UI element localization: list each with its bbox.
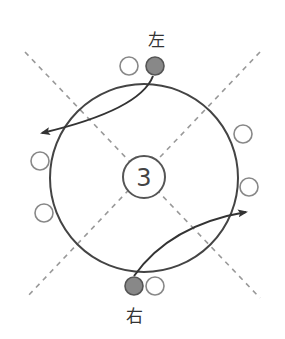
open-marker-icon — [35, 204, 53, 222]
right-player-marker-icon — [125, 277, 143, 295]
open-marker-icon — [120, 57, 138, 75]
label-right: 右 — [126, 306, 143, 326]
arrow-from-right-icon — [134, 212, 246, 276]
open-marker-icon — [31, 152, 49, 170]
left-player-marker-icon — [146, 57, 164, 75]
center-badge: 3 — [123, 156, 165, 198]
rotation-diagram: 3 左 右 — [0, 0, 285, 339]
center-number: 3 — [136, 164, 151, 192]
open-marker-icon — [146, 277, 164, 295]
label-left: 左 — [148, 30, 165, 50]
open-marker-icon — [240, 178, 258, 196]
open-marker-icon — [234, 125, 252, 143]
